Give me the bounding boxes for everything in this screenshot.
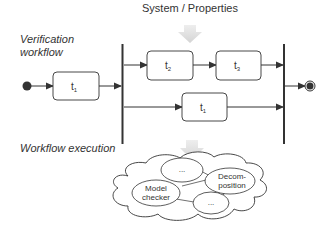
cloud-node-model-checker: Model checker (132, 180, 180, 206)
workflow-diagram: System / Properties Verification workflo… (0, 0, 336, 227)
svg-text:...: ... (208, 198, 215, 207)
join-bar (283, 44, 285, 144)
verification-label-line1: Verification (20, 33, 74, 45)
cloud-node-dots-bottom: ... (193, 192, 229, 214)
task-t1: t1 (53, 72, 99, 100)
end-node (305, 81, 315, 91)
task-t1-parallel: t1 (182, 93, 227, 121)
task-t3: t3 (216, 51, 261, 80)
input-arrow-icon (178, 25, 202, 43)
svg-text:Decom-: Decom- (218, 172, 246, 181)
start-node (23, 82, 32, 91)
svg-text:checker: checker (142, 193, 170, 202)
cloud-node-decomposition: Decom- position (205, 168, 255, 194)
task-t2: t2 (147, 51, 193, 80)
execution-label: Workflow execution (20, 142, 115, 154)
svg-text:Model: Model (145, 184, 167, 193)
svg-text:position: position (218, 181, 246, 190)
cloud-node-dots-top: ... (161, 158, 203, 182)
fork-bar (122, 44, 124, 144)
verification-label-line2: workflow (20, 46, 64, 58)
page-title: System / Properties (142, 2, 238, 14)
svg-text:...: ... (179, 165, 186, 174)
